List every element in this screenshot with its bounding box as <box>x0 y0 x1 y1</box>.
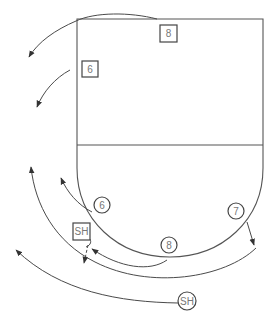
player-circle-8: 8 <box>161 237 177 253</box>
player-circle-7: 7 <box>228 203 244 219</box>
svg-text:8: 8 <box>166 28 172 39</box>
svg-text:SH: SH <box>75 226 89 237</box>
court-outline <box>77 19 263 257</box>
arrow-sh-sweep-path <box>16 250 178 303</box>
svg-text:8: 8 <box>166 240 172 251</box>
svg-text:7: 7 <box>233 206 239 217</box>
player-circle-sh: SH <box>178 292 196 310</box>
arrow-circle6-path <box>61 178 92 212</box>
arrow-long-sweep-path <box>31 167 256 278</box>
player-square-6: 6 <box>82 61 98 77</box>
svg-text:SH: SH <box>180 296 194 307</box>
svg-text:6: 6 <box>87 64 93 75</box>
player-square-sh: SH <box>73 223 90 240</box>
arrow-box6-path <box>37 70 70 107</box>
arrow-circle7-path <box>247 222 254 245</box>
arrow-boxsh-dashed-path <box>84 245 88 263</box>
player-circle-6: 6 <box>94 197 110 213</box>
svg-text:6: 6 <box>99 200 105 211</box>
player-square-8: 8 <box>160 25 177 42</box>
arrow-circle8-path <box>92 249 167 267</box>
play-diagram: 8 6 SH 6 7 8 SH <box>0 0 279 325</box>
arrow-box8-path <box>29 14 157 57</box>
